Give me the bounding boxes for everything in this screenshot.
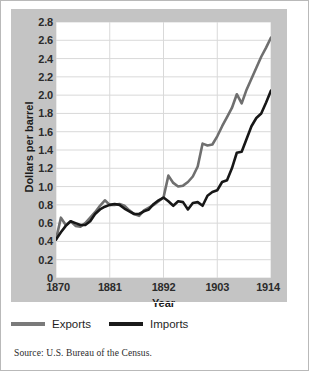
panel-divider	[11, 302, 287, 303]
x-axis-tick-labels: 18701881189219031914	[56, 282, 271, 298]
plot-area	[56, 22, 271, 278]
y-axis-tick-label: 0.2	[38, 254, 53, 265]
legend-label: Exports	[52, 318, 91, 330]
x-axis-tick-label: 1870	[46, 282, 70, 293]
legend-swatch-icon	[11, 322, 45, 326]
y-axis-tick-label: 1.2	[38, 163, 53, 174]
y-axis-tick-label: 2.6	[38, 35, 53, 46]
legend-item: Imports	[109, 318, 188, 330]
x-axis-tick-label: 1914	[256, 282, 280, 293]
y-axis-tick-label: 2.0	[38, 90, 53, 101]
y-axis-tick-label: 0.6	[38, 218, 53, 229]
y-axis-tick-label: 1.6	[38, 126, 53, 137]
y-axis-tick-label: 2.2	[38, 71, 53, 82]
legend-swatch-icon	[109, 322, 143, 326]
source-note: Source: U.S. Bureau of the Census.	[14, 348, 152, 358]
y-axis-tick-label: 1.0	[38, 181, 53, 192]
x-axis-tick-label: 1881	[98, 282, 122, 293]
gridlines	[56, 22, 271, 278]
x-axis-tick-label: 1892	[152, 282, 176, 293]
y-axis-tick-label: 2.8	[38, 17, 53, 28]
x-axis-tick-label: 1903	[205, 282, 229, 293]
y-axis-tick-label: 1.8	[38, 108, 53, 119]
chart-figure: 2.82.62.42.22.01.81.61.41.21.00.80.60.40…	[0, 0, 309, 371]
y-axis-title: Dollars per barrel	[23, 72, 35, 222]
y-axis-tick-label: 0.8	[38, 199, 53, 210]
legend-item: Exports	[11, 318, 91, 330]
y-axis-tick-label: 0.4	[38, 236, 53, 247]
x-axis-title: Year	[56, 297, 271, 309]
chart-legend: ExportsImports	[11, 313, 287, 335]
line-chart-svg	[56, 22, 271, 278]
legend-label: Imports	[150, 318, 188, 330]
y-axis-tick-label: 1.4	[38, 145, 53, 156]
y-axis-tick-label: 2.4	[38, 53, 53, 64]
